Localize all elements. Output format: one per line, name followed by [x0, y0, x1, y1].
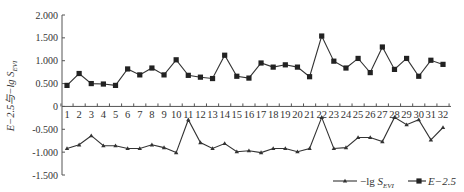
x-tick-label: 10: [171, 109, 182, 120]
y-tick-label: -0.500: [32, 124, 58, 135]
y-tick-label: 0: [53, 101, 58, 112]
square-marker: [416, 178, 421, 183]
chart: 2.0001.5001.0000.5000-0.500-1.000-1.500 …: [0, 0, 464, 192]
x-tick-label: 1: [64, 109, 69, 120]
square-marker: [319, 33, 324, 38]
square-marker: [283, 62, 288, 67]
x-tick-label: 31: [426, 109, 437, 120]
x-tick-label: 4: [101, 109, 107, 120]
legend-label: −lg SEVI: [360, 175, 395, 190]
triangle-marker: [441, 125, 445, 129]
series-e-minus-2-5: [64, 33, 445, 88]
x-tick-label: 25: [353, 109, 364, 120]
square-marker: [258, 60, 263, 65]
y-title-main: E−2.5与−lg: [5, 77, 16, 133]
x-tick-label: 26: [365, 109, 376, 120]
square-marker: [198, 75, 203, 80]
x-tick-label: 2: [77, 109, 82, 120]
x-tick-label: 12: [195, 109, 206, 120]
square-marker: [392, 67, 397, 72]
x-tick-label: 17: [256, 109, 267, 120]
x-tick-label: 6: [125, 109, 130, 120]
square-marker: [331, 59, 336, 64]
y-title-sub: EVI: [11, 60, 19, 73]
square-marker: [271, 65, 276, 70]
square-marker: [380, 44, 385, 49]
x-tick-label: 19: [280, 109, 291, 120]
square-marker: [355, 56, 360, 61]
square-marker: [368, 70, 373, 75]
y-tick-label: 1.500: [36, 32, 59, 43]
square-marker: [295, 65, 300, 70]
legend: −lg SEVIE−2.5: [333, 175, 456, 190]
square-marker: [186, 73, 191, 78]
square-marker: [161, 72, 166, 77]
square-marker: [101, 81, 106, 86]
x-tick-label: 20: [292, 109, 303, 120]
y-tick-label: -1.500: [32, 170, 58, 181]
square-marker: [307, 74, 312, 79]
square-marker: [89, 81, 94, 86]
square-marker: [174, 57, 179, 62]
square-marker: [77, 71, 82, 76]
legend-item-e-minus-2-5: E−2.5: [408, 175, 456, 187]
x-tick-label: 23: [329, 109, 340, 120]
x-tick-label: 16: [244, 109, 255, 120]
square-marker: [210, 76, 215, 81]
square-marker: [246, 75, 251, 80]
square-marker: [222, 53, 227, 58]
x-tick-label: 14: [219, 109, 230, 120]
y-tick-label: -1.000: [32, 147, 58, 158]
x-tick-label: 21: [304, 109, 315, 120]
triangle-marker: [198, 140, 202, 144]
square-marker: [64, 83, 69, 88]
x-tick-label: 24: [341, 109, 352, 120]
y-tick-label: 2.000: [36, 10, 59, 21]
square-marker: [428, 58, 433, 63]
square-marker: [440, 62, 445, 67]
y-tick-label: 0.500: [36, 78, 59, 89]
x-tick-label: 3: [89, 109, 94, 120]
x-tick-label: 27: [377, 109, 388, 120]
x-axis: 1234567891011121314151617181920212223242…: [61, 103, 451, 120]
x-tick-label: 18: [268, 109, 279, 120]
series-layer: [64, 33, 445, 154]
series-line: [67, 117, 443, 152]
x-tick-label: 32: [438, 109, 449, 120]
square-marker: [149, 65, 154, 70]
y-tick-label: 1.000: [36, 55, 59, 66]
y-axis: 2.0001.5001.0000.5000-0.500-1.000-1.500: [32, 10, 65, 181]
x-tick-label: 13: [207, 109, 218, 120]
x-tick-label: 8: [149, 109, 154, 120]
series-neg-lg-s-evi: [65, 115, 445, 154]
triangle-marker: [307, 146, 311, 150]
triangle-marker: [222, 141, 226, 145]
square-marker: [343, 65, 348, 70]
triangle-marker: [89, 133, 93, 137]
x-tick-label: 15: [232, 109, 243, 120]
square-marker: [125, 66, 130, 71]
x-tick-label: 29: [401, 109, 412, 120]
square-marker: [137, 72, 142, 77]
x-tick-label: 9: [161, 109, 166, 120]
triangle-marker: [150, 143, 154, 147]
x-tick-label: 5: [113, 109, 118, 120]
square-marker: [416, 74, 421, 79]
x-tick-label: 7: [137, 109, 142, 120]
square-marker: [404, 56, 409, 61]
square-marker: [113, 83, 118, 88]
legend-item-neg-lg-s-evi: −lg SEVI: [333, 175, 395, 190]
square-marker: [234, 74, 239, 79]
y-axis-title: E−2.5与−lg SEVI: [5, 60, 19, 132]
series-line: [67, 36, 443, 85]
legend-label: E−2.5: [427, 175, 456, 187]
